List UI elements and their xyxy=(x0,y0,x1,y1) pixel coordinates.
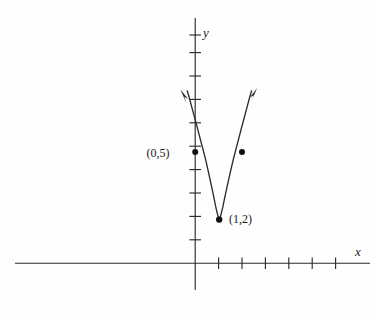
point-marker-2-5[interactable] xyxy=(239,149,245,155)
parabola-curve-group xyxy=(187,91,251,220)
point-marker-1-2-vertex[interactable] xyxy=(216,216,222,222)
label-point-0-5: (0,5) xyxy=(147,146,170,160)
label-point-1-2: (1,2) xyxy=(229,212,252,226)
curve-arrowheads xyxy=(180,88,257,103)
y-axis-label: y xyxy=(201,25,209,40)
axes-group xyxy=(15,18,370,290)
x-axis-label: x xyxy=(354,244,361,259)
graph-canvas: (0,5) (1,2) y x xyxy=(0,0,378,323)
point-marker-0-5[interactable] xyxy=(192,149,198,155)
parabola-path xyxy=(187,91,251,220)
parabola-figure: (0,5) (1,2) y x xyxy=(0,0,378,323)
